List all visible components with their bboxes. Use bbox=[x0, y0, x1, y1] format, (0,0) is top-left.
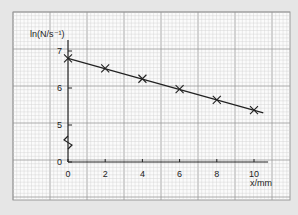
x-tick-label: 2 bbox=[103, 169, 108, 179]
chart: 02468100567 ln(N/s⁻¹) x/mm bbox=[0, 0, 298, 215]
x-tick-label: 6 bbox=[177, 169, 182, 179]
y-tick-label: 6 bbox=[57, 83, 62, 93]
y-axis-label: ln(N/s⁻¹) bbox=[30, 29, 65, 39]
y-tick-label: 0 bbox=[57, 157, 62, 167]
x-tick-label: 4 bbox=[140, 169, 145, 179]
x-axis-label: x/mm bbox=[250, 178, 272, 188]
x-tick-label: 0 bbox=[65, 169, 70, 179]
y-tick-label: 7 bbox=[57, 46, 62, 56]
x-tick-label: 8 bbox=[214, 169, 219, 179]
y-tick-label: 5 bbox=[57, 120, 62, 130]
